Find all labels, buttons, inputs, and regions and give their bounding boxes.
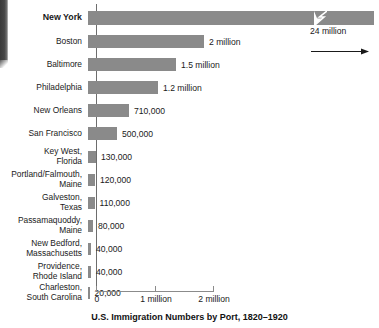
bar-area-philadelphia: 1.2 million: [88, 76, 379, 99]
bar-area-boston: 2 million: [88, 30, 379, 53]
x-tick-1-million: [155, 286, 156, 292]
bar-chart: New York 24 million: [0, 0, 379, 328]
x-tick-label-1-million: 1 million: [140, 294, 172, 304]
chart-row-passamaquoddy: Passamaquoddy, Maine 80,000: [0, 214, 379, 237]
bar-passamaquoddy: [88, 220, 93, 232]
x-tick-2-million: [213, 286, 214, 292]
bar-area-new-bedford: 40,000: [88, 237, 379, 260]
chart-row-boston: Boston 2 million: [0, 30, 379, 53]
value-label-philadelphia: 1.2 million: [163, 83, 202, 93]
value-label-portland-falmouth: 120,000: [100, 175, 131, 185]
chart-row-new-orleans: New Orleans 710,000: [0, 99, 379, 122]
chart-page: New York 24 million: [0, 0, 379, 328]
value-label-baltimore: 1.5 million: [181, 60, 220, 70]
value-label-galveston: 110,000: [100, 198, 130, 208]
bar-new-orleans: [88, 104, 129, 117]
value-label-boston: 2 million: [209, 37, 241, 47]
chart-row-philadelphia: Philadelphia 1.2 million: [0, 76, 379, 99]
value-label-new-orleans: 710,000: [134, 106, 165, 116]
category-label-portland-falmouth: Portland/Falmouth, Maine: [0, 170, 88, 189]
bar-area-charleston: 20,000: [88, 281, 379, 304]
bar-area-galveston: 110,000: [88, 191, 379, 214]
bar-area-providence: 40,000: [88, 260, 379, 283]
value-label-providence: 40,000: [96, 267, 122, 277]
chart-row-galveston: Galveston, Texas 110,000: [0, 191, 379, 214]
chart-caption: U.S. Immigration Numbers by Port, 1820–1…: [0, 312, 379, 322]
bar-portland-falmouth: [88, 174, 95, 186]
category-label-new-orleans: New Orleans: [0, 106, 88, 115]
bar-area-key-west: 130,000: [88, 145, 379, 168]
bar-area-portland-falmouth: 120,000: [88, 168, 379, 191]
axis-break-zigzag-icon: [314, 11, 327, 25]
category-label-key-west: Key West, Florida: [0, 147, 88, 166]
bar-key-west: [88, 151, 96, 163]
bar-area-new-orleans: 710,000: [88, 99, 379, 122]
value-label-new-bedford: 40,000: [96, 244, 122, 254]
value-label-san-francisco: 500,000: [122, 129, 153, 139]
bar-area-san-francisco: 500,000: [88, 122, 379, 145]
chart-row-san-francisco: San Francisco 500,000: [0, 122, 379, 145]
category-label-galveston: Galveston, Texas: [0, 193, 88, 212]
chart-row-baltimore: Baltimore 1.5 million: [0, 53, 379, 76]
bar-area-baltimore: 1.5 million: [88, 53, 379, 76]
bar-baltimore: [88, 58, 176, 71]
category-label-new-bedford: New Bedford, Massachusetts: [0, 239, 88, 258]
bar-san-francisco: [88, 127, 117, 140]
category-label-san-francisco: San Francisco: [0, 129, 88, 138]
bar-boston: [88, 35, 204, 48]
bar-new-bedford: [88, 243, 91, 255]
x-tick-0: [96, 286, 97, 292]
category-label-providence: Providence, Rhode Island: [0, 262, 88, 281]
bar-galveston: [88, 197, 95, 209]
chart-row-portland-falmouth: Portland/Falmouth, Maine 120,000: [0, 168, 379, 191]
value-label-passamaquoddy: 80,000: [98, 221, 124, 231]
x-tick-label-0: 0: [95, 294, 100, 304]
x-tick-label-2-million: 2 million: [198, 294, 230, 304]
chart-row-charleston: Charleston, South Carolina 20,000: [0, 281, 379, 304]
bar-new-york-segment-right: [327, 11, 374, 25]
category-label-philadelphia: Philadelphia: [0, 83, 88, 92]
category-label-passamaquoddy: Passamaquoddy, Maine: [0, 216, 88, 235]
category-label-charleston: Charleston, South Carolina: [0, 283, 88, 302]
chart-row-key-west: Key West, Florida 130,000: [0, 145, 379, 168]
value-label-key-west: 130,000: [101, 152, 132, 162]
bar-area-passamaquoddy: 80,000: [88, 214, 379, 237]
category-label-boston: Boston: [0, 37, 88, 46]
bar-providence: [88, 266, 91, 278]
bar-charleston: [88, 287, 90, 299]
category-label-baltimore: Baltimore: [0, 60, 88, 69]
category-label-new-york: New York: [0, 13, 88, 22]
chart-row-providence: Providence, Rhode Island 40,000: [0, 260, 379, 283]
bar-philadelphia: [88, 81, 158, 94]
bar-new-york-segment-left: [88, 11, 314, 25]
chart-row-new-bedford: New Bedford, Massachusetts 40,000: [0, 237, 379, 260]
